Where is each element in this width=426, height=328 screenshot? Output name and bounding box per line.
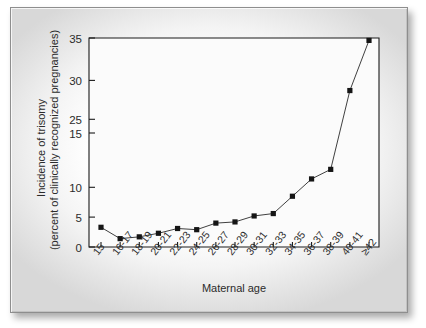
y-axis-tick-labels: 0 5 10 15 25 30 35 [69, 33, 82, 254]
y-tick-label-10: 10 [69, 182, 82, 194]
y-tick-label-30: 30 [69, 75, 82, 87]
data-point-18-19 [137, 234, 142, 239]
data-point-40-41 [347, 88, 352, 93]
y-axis-title-line-2: (percent of clinically recognized pregna… [48, 30, 60, 250]
y-tick-label-35: 35 [69, 33, 82, 45]
data-point-30-31 [252, 213, 257, 218]
data-point-28-29 [232, 219, 237, 224]
y-axis-title-line-1: Incidence of trisomy [35, 99, 47, 197]
y-tick-label-15: 15 [69, 128, 82, 140]
data-point-32-33 [271, 211, 276, 216]
data-point-16-17 [118, 236, 123, 241]
plot-panel-background [89, 38, 379, 247]
data-point-15 [98, 225, 103, 230]
data-point-38-39 [328, 167, 333, 172]
y-tick-label-5: 5 [76, 212, 82, 224]
data-point-20-21 [156, 231, 161, 236]
figure-root: 0 5 10 15 25 30 35 1516-1718-1920-2122-2… [0, 0, 426, 328]
data-point-26-27 [213, 221, 218, 226]
y-tick-label-25: 25 [69, 114, 82, 126]
y-tick-label-0: 0 [76, 242, 82, 254]
trisomy-line-chart: 0 5 10 15 25 30 35 1516-1718-1920-2122-2… [0, 0, 426, 328]
data-point-≥42 [366, 38, 371, 43]
data-point-24-25 [194, 227, 199, 232]
data-point-36-37 [309, 176, 314, 181]
x-axis-title: Maternal age [202, 282, 266, 294]
plot-area-wrapper: 0 5 10 15 25 30 35 1516-1718-1920-2122-2… [0, 0, 426, 328]
data-point-22-23 [175, 226, 180, 231]
data-point-34-35 [290, 194, 295, 199]
